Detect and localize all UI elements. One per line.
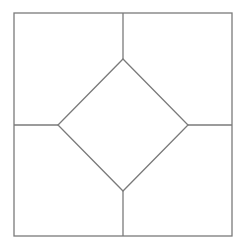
square-diamond-diagram: [0, 0, 246, 248]
